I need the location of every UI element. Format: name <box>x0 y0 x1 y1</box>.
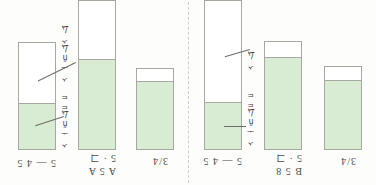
bar-6 <box>18 42 56 150</box>
scanned-chart-canvas: 3/4 B 5 8 5 ∙ コ ᄼ ᅩ ñ ム ᄃ ᄃ <box>0 0 376 185</box>
bar-label-4: 3/4 <box>152 156 168 167</box>
bar-3 <box>204 0 242 150</box>
bar-1-shaded-segment <box>325 80 361 149</box>
bar-label-1: 3/4 <box>340 156 356 167</box>
annotation-glyph: ム <box>244 50 258 60</box>
annotation-glyph: ᄼ <box>58 138 72 148</box>
bar-label-2-line2: 5 ∙ コ <box>275 152 303 167</box>
leader-line-1 <box>224 126 246 127</box>
bar-label-1-line1: 3/4 <box>340 156 356 167</box>
annotation-glyph: ᄃ <box>244 88 258 98</box>
annotation-glyph: ᅩ <box>244 126 258 136</box>
annotation-column-right-upper: ᄼ ᅩ ñ ム ᄃ ᄃ <box>57 90 73 147</box>
bar-label-3-line1: 5 — 4 5 <box>203 156 243 167</box>
bar-label-5-line2: 5 ∙ コ <box>88 152 116 167</box>
annotation-column-left: ᄼ ᅩ ñ ム ᄃ ᄃ <box>243 88 259 145</box>
bar-5 <box>78 0 116 150</box>
annotation-column-left-lower: ᄼ ム <box>243 50 259 69</box>
bar-5-shaded-segment <box>79 59 115 149</box>
bar-2 <box>264 41 302 150</box>
bar-label-2-line1: B 5 8 <box>275 166 302 177</box>
bar-4 <box>136 68 174 150</box>
panel-left: 3/4 B 5 8 5 ∙ コ ᄼ ᅩ ñ ム ᄃ ᄃ <box>188 0 376 185</box>
bar-label-5: A 5 A 5 ∙ コ <box>88 152 116 177</box>
annotation-glyph: ム <box>58 43 72 53</box>
panel-right: 3/4 A 5 A 5 ∙ コ ᄼ ᅩ ñ ム ᄃ ᄃ <box>0 0 188 185</box>
rotated-content-wrapper: 3/4 B 5 8 5 ∙ コ ᄼ ᅩ ñ ム ᄃ ᄃ <box>0 0 376 185</box>
bar-label-2: B 5 8 5 ∙ コ <box>275 152 303 177</box>
bar-label-4-line1: 3/4 <box>152 156 168 167</box>
bar-4-shaded-segment <box>137 81 173 149</box>
bar-6-shaded-segment <box>19 103 55 149</box>
bar-label-6-line1: 5 — 4 5 <box>17 158 57 169</box>
annotation-glyph: ム <box>244 107 258 117</box>
annotation-glyph: ム <box>58 24 72 34</box>
bar-label-3: 5 — 4 5 <box>203 156 243 167</box>
annotation-glyph: ñ <box>58 119 72 129</box>
annotation-glyph: ᄼ <box>244 60 258 70</box>
annotation-glyph: ᄼ <box>58 34 72 44</box>
annotation-column-right-lower: ᄼ ᅩ ñ ム ᄼ ム <box>57 24 73 81</box>
annotation-glyph: ᄃ <box>58 100 72 110</box>
bar-label-6: 5 — 4 5 <box>17 158 57 169</box>
annotation-glyph: ᄼ <box>244 136 258 146</box>
annotation-glyph: ñ <box>58 53 72 63</box>
bar-label-5-line1: A 5 A <box>88 166 116 177</box>
bar-2-shaded-segment <box>265 57 301 149</box>
annotation-glyph: ᄼ <box>58 72 72 82</box>
annotation-glyph: ᄃ <box>58 90 72 100</box>
annotation-glyph: ñ <box>244 117 258 127</box>
annotation-glyph: ᄃ <box>244 98 258 108</box>
bar-1 <box>324 66 362 150</box>
annotation-glyph: ᅩ <box>58 128 72 138</box>
